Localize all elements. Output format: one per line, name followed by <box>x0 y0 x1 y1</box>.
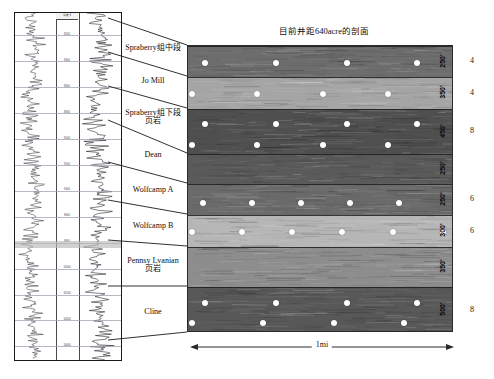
band-texture <box>188 247 452 287</box>
formation-label-line1: Wolfcamp B <box>112 221 194 230</box>
stratigraphic-band <box>188 184 452 215</box>
stratigraphic-band <box>188 287 452 332</box>
band-boundary <box>188 184 452 185</box>
well-log-panel: 深度 ft 8200840086008800900092009400960098… <box>14 12 122 361</box>
well-location-dot <box>344 60 350 66</box>
well-location-dot <box>273 121 279 127</box>
right-margin-number: 4 <box>470 56 484 65</box>
right-margin-numbers: 448668 <box>470 45 494 332</box>
band-texture <box>188 154 452 184</box>
depth-tick-label: 9200 <box>57 163 77 166</box>
formation-label-line1: Wolfcamp A <box>112 185 194 194</box>
band-boundary <box>188 215 452 216</box>
formation-thickness-label: 250' <box>437 157 449 179</box>
well-location-dot <box>273 60 279 66</box>
formation-label-line2: 页岩 <box>112 265 194 274</box>
band-texture <box>188 184 452 215</box>
depth-tick-label: 8400 <box>57 59 77 62</box>
well-location-dot <box>202 121 208 127</box>
band-texture <box>188 46 452 77</box>
band-boundary <box>188 247 452 248</box>
formation-thickness-label: 250' <box>437 50 449 72</box>
figure-root: 深度 ft 8200840086008800900092009400960098… <box>0 0 494 379</box>
formation-thickness-label: 450' <box>437 120 449 142</box>
formation-label-line1: Jo Mill <box>112 76 194 85</box>
depth-tick-label: 10600 <box>57 344 77 347</box>
right-margin-number: 8 <box>470 305 484 314</box>
depth-tick-label: 8200 <box>57 33 77 36</box>
band-texture <box>188 109 452 154</box>
band-boundary <box>188 287 452 288</box>
well-location-dot <box>298 200 304 206</box>
stratigraphic-band <box>188 109 452 154</box>
right-margin-number: 8 <box>470 126 484 135</box>
band-boundary <box>188 46 452 47</box>
well-location-dot <box>344 121 350 127</box>
well-location-dot <box>202 300 208 306</box>
formation-label-column: Spraberry组中段Jo MillSpraberry组下段页岩DeanWol… <box>112 10 194 362</box>
well-location-dot <box>347 200 353 206</box>
formation-label-line1: Dean <box>112 150 194 159</box>
formation-label: Cline <box>112 307 194 316</box>
depth-tick-label: 8600 <box>57 85 77 88</box>
right-margin-number: 6 <box>470 194 484 203</box>
well-location-dot <box>189 91 195 97</box>
right-margin-number: 6 <box>470 226 484 235</box>
depth-tick-label: 8800 <box>57 111 77 114</box>
figure-title: 目前井距640acre的剖面 <box>214 26 434 36</box>
gamma-ray-curve-left <box>15 13 56 360</box>
formation-label: Wolfcamp A <box>112 185 194 194</box>
thickness-label-column: 250'350'450'250'250'300'350'500' <box>432 45 454 332</box>
depth-tick-label: 10400 <box>57 318 77 321</box>
well-location-dot <box>289 229 295 235</box>
formation-label-line2: 页岩 <box>112 117 194 126</box>
formation-thickness-label: 350' <box>437 255 449 277</box>
band-boundary <box>188 77 452 78</box>
right-margin-number: 4 <box>470 88 484 97</box>
formation-label: Jo Mill <box>112 76 194 85</box>
formation-thickness-label: 350' <box>437 81 449 103</box>
formation-thickness-label: 500' <box>437 298 449 320</box>
well-location-dot <box>273 300 279 306</box>
depth-tick-label: 9600 <box>57 214 77 217</box>
well-location-dot <box>189 142 195 148</box>
formation-label-line1: Cline <box>112 307 194 316</box>
band-texture <box>188 287 452 332</box>
stratigraphic-band <box>188 247 452 287</box>
well-location-dot <box>320 91 326 97</box>
well-location-dot <box>249 200 255 206</box>
log-highlight-interval <box>15 241 121 248</box>
scale-bar-label: 1mi <box>312 339 332 351</box>
log-track-left <box>15 13 56 360</box>
stratigraphic-band <box>188 154 452 184</box>
well-location-dot <box>260 320 266 326</box>
band-texture <box>188 215 452 247</box>
formation-label-line1: Spraberry组中段 <box>112 43 194 52</box>
formation-label: Spraberry组下段页岩 <box>112 109 194 126</box>
depth-track <box>56 13 80 360</box>
stratigraphic-band <box>188 215 452 247</box>
well-location-dot <box>320 142 326 148</box>
depth-tick-label: 10200 <box>57 292 77 295</box>
well-location-dot <box>344 300 350 306</box>
scale-bar: 1mi <box>190 339 454 355</box>
depth-tick-label: 9000 <box>57 137 77 140</box>
well-location-dot <box>331 320 337 326</box>
formation-thickness-label: 250' <box>437 188 449 210</box>
depth-column-header: 深度 ft <box>56 13 78 20</box>
formation-label: Wolfcamp B <box>112 221 194 230</box>
well-location-dot <box>390 229 396 235</box>
band-boundary <box>188 154 452 155</box>
depth-tick-label: 9400 <box>57 188 77 191</box>
band-boundary <box>188 109 452 110</box>
depth-tick-label: 10000 <box>57 266 77 269</box>
formation-thickness-label: 300' <box>437 219 449 241</box>
well-location-dot <box>189 320 195 326</box>
formation-label: Dean <box>112 150 194 159</box>
formation-label: Pennsy Lvanian页岩 <box>112 257 194 274</box>
well-location-dot <box>239 229 245 235</box>
well-location-dot <box>189 229 195 235</box>
formation-label: Spraberry组中段 <box>112 43 194 52</box>
cross-section-diagram <box>187 45 453 332</box>
stratigraphic-band <box>188 46 452 77</box>
